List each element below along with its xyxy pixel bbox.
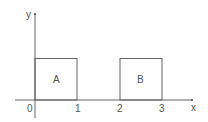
x-tick-label: 2 [117,103,123,114]
region-a-label: A [53,74,60,85]
x-axis-arrow-icon [191,99,193,101]
x-axis-label: x [191,102,196,113]
region-b-label: B [137,74,144,85]
y-axis-arrow-icon [34,13,36,15]
x-tick-label: 1 [75,103,81,114]
coordinate-diagram: y x 0 1 2 3 A B [0,0,208,122]
origin-label: 0 [27,103,33,114]
y-axis-label: y [26,9,31,20]
x-tick-label: 3 [159,103,165,114]
